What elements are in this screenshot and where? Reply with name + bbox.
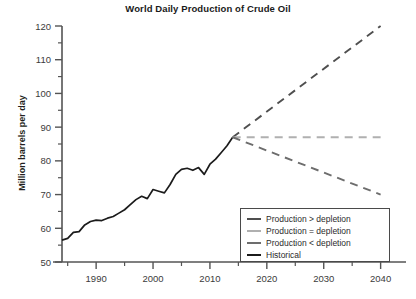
svg-text:2000: 2000 — [142, 273, 163, 284]
chart-container: World Daily Production of Crude Oil Mill… — [0, 0, 416, 299]
svg-text:110: 110 — [36, 54, 51, 65]
svg-text:1990: 1990 — [86, 273, 107, 284]
svg-text:2020: 2020 — [256, 273, 277, 284]
legend-item-production-less: Production < depletion — [247, 237, 389, 249]
legend-item-historical: Historical — [247, 249, 389, 261]
svg-text:90: 90 — [40, 122, 51, 133]
svg-text:2010: 2010 — [199, 273, 220, 284]
svg-text:60: 60 — [40, 223, 51, 234]
svg-text:100: 100 — [35, 88, 51, 99]
legend-label-production-equal: Production = depletion — [266, 226, 351, 236]
svg-text:120: 120 — [35, 21, 51, 32]
chart-legend: Production > depletion Production = depl… — [240, 208, 390, 262]
legend-item-production-greater: Production > depletion — [247, 213, 389, 225]
series-production-depletion — [233, 137, 381, 194]
legend-label-historical: Historical — [266, 250, 301, 260]
svg-text:2040: 2040 — [370, 273, 391, 284]
series-historical — [62, 137, 233, 240]
series-production-depletion — [233, 26, 381, 137]
legend-label-production-less: Production < depletion — [266, 238, 351, 248]
legend-item-production-equal: Production = depletion — [247, 225, 389, 237]
legend-label-production-greater: Production > depletion — [266, 214, 351, 224]
svg-text:50: 50 — [40, 257, 51, 268]
legend-swatch-production-greater — [247, 218, 261, 220]
legend-swatch-production-equal — [247, 230, 261, 232]
svg-text:70: 70 — [40, 189, 51, 200]
svg-text:80: 80 — [40, 155, 51, 166]
legend-swatch-production-less — [247, 242, 261, 244]
legend-swatch-historical — [247, 254, 261, 256]
svg-text:2030: 2030 — [313, 273, 334, 284]
